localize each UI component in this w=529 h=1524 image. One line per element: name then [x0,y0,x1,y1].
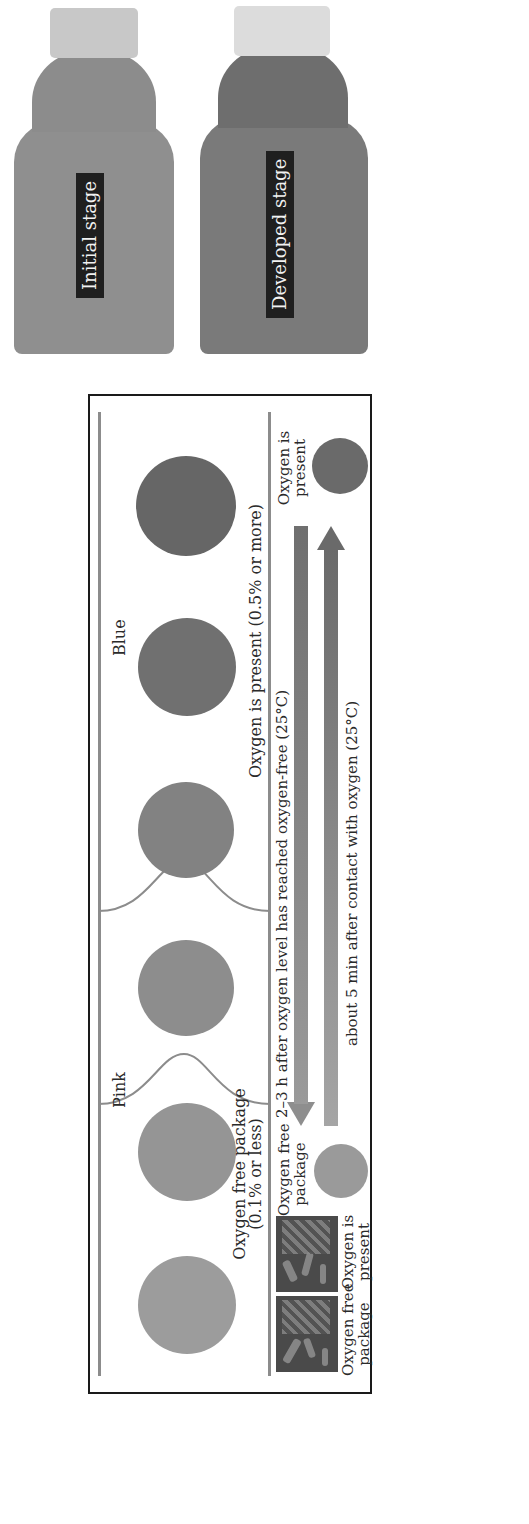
oxygen-indicator-diagram: Pink Blue Oxygen free package (0.1% or l… [88,394,372,1394]
cycle-end-label: Oxygen is present [276,426,308,510]
pink-label: Pink [112,1072,128,1108]
package-photo-oxygen-free [276,1296,338,1372]
package-caption-oxygen-free-line2: package [355,1302,373,1365]
swatch-5 [138,618,236,716]
arrow-head-left-icon [287,1102,315,1126]
deoxygenation-arrow [294,526,308,1126]
swatch-4 [138,782,234,878]
package-caption-oxygen-present-line2: present [355,1223,373,1281]
bottle-cap [234,6,330,56]
arrow-shaft [324,548,338,1126]
bottle-neck [32,52,156,132]
cycle-start-swatch [314,1144,368,1198]
bottle-initial-stage: Initial stage [8,0,180,354]
package-photo-oxygen-present [276,1216,338,1292]
oxygenation-arrow [324,526,338,1126]
bottle-cap [50,8,138,58]
swatch-3 [138,940,234,1036]
bottles-photo: Initial stage Developed stage [0,0,529,354]
figure-stage: Pink Blue Oxygen free package (0.1% or l… [0,0,529,1524]
cycle-start-label: Oxygen free package [276,1132,308,1216]
reaction-cycle-panel: Oxygen free package Oxygen is present Ox… [272,412,370,1376]
deoxygenation-arrow-text: 2–3 h after oxygen level has reached oxy… [274,690,290,1118]
swatch-6 [136,456,236,556]
swatch-1 [138,1256,236,1354]
oxygen-free-range-label: Oxygen free package (0.1% or less) [232,1084,264,1264]
package-caption-oxygen-free: Oxygen free package [340,1292,372,1376]
cycle-end-swatch [312,438,368,494]
blue-label: Blue [112,619,128,656]
oxygenation-arrow-text: about 5 min after contact with oxygen (2… [344,701,360,1046]
swatch-2 [138,1103,236,1201]
arrow-shaft [294,526,308,1104]
bottle-neck [218,48,348,128]
stage-label-developed: Developed stage [266,151,294,318]
arrow-head-right-icon [317,526,345,550]
oxygen-free-range-sub: (0.1% or less) [246,1118,265,1230]
package-caption-oxygen-present: Oxygen is present [340,1210,372,1294]
cycle-end-label-line2: present [291,439,309,497]
bottle-developed-stage: Developed stage [196,0,372,354]
stage-label-initial: Initial stage [76,173,104,298]
color-scale-panel: Pink Blue Oxygen free package (0.1% or l… [98,412,270,1376]
cycle-start-label-line2: package [291,1142,309,1205]
oxygen-present-range-label: Oxygen is present (0.5% or more) [248,504,264,778]
